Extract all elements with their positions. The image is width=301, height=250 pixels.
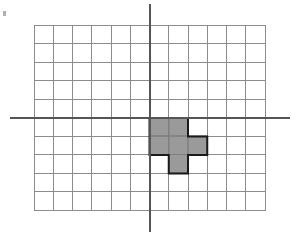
grid-cell [246, 99, 265, 118]
grid-cell [150, 81, 169, 100]
grid-cell [73, 136, 92, 155]
grid-cell [130, 155, 149, 174]
grid-cell [169, 192, 188, 211]
grid-cell [73, 173, 92, 192]
grid-cell [73, 99, 92, 118]
grid-cell [188, 81, 207, 100]
grid-cell [53, 44, 72, 63]
grid-cell [150, 192, 169, 211]
grid-cell [207, 192, 226, 211]
grid-cell [92, 25, 111, 44]
grid-cell [92, 44, 111, 63]
grid-cell [34, 136, 53, 155]
grid-cell [188, 192, 207, 211]
grid-cell [111, 192, 130, 211]
grid-cell [92, 192, 111, 211]
grid-cell [53, 118, 72, 137]
grid-cell [130, 62, 149, 81]
grid-cell [73, 118, 92, 137]
grid-cell [246, 81, 265, 100]
grid-cell [169, 99, 188, 118]
grid-cell [92, 136, 111, 155]
grid-cell [207, 81, 226, 100]
grid-cell [53, 62, 72, 81]
grid-cell [227, 62, 246, 81]
grid-cell [92, 173, 111, 192]
grid-cell [246, 155, 265, 174]
grid-cell [227, 118, 246, 137]
grid-cell [34, 155, 53, 174]
grid-cell [111, 25, 130, 44]
shaded-cell [169, 118, 188, 137]
grid-cell [227, 25, 246, 44]
grid-cell [111, 118, 130, 137]
grid-cell [227, 44, 246, 63]
grid-cell [73, 192, 92, 211]
grid-cell [246, 136, 265, 155]
grid-cell [227, 173, 246, 192]
grid-cell [130, 173, 149, 192]
corner-tick-mark [3, 11, 6, 16]
grid-cell [92, 99, 111, 118]
grid-cell [207, 118, 226, 137]
grid-cell [111, 155, 130, 174]
grid-cell [246, 118, 265, 137]
grid-cell [150, 173, 169, 192]
grid-cell [130, 44, 149, 63]
grid-cell [246, 44, 265, 63]
grid-cell [130, 81, 149, 100]
grid-cell [169, 173, 188, 192]
grid-cell [246, 25, 265, 44]
grid-cell [73, 155, 92, 174]
shaded-cell [169, 136, 188, 155]
grid-cell [53, 99, 72, 118]
grid-cell [130, 136, 149, 155]
grid-cell [188, 62, 207, 81]
grid-cell [227, 136, 246, 155]
grid-cell [188, 118, 207, 137]
grid-cell [169, 25, 188, 44]
corner-mark-group [3, 11, 6, 16]
grid-cell [130, 99, 149, 118]
grid-cell [111, 136, 130, 155]
grid-cell [92, 62, 111, 81]
grid-cell [246, 192, 265, 211]
shaded-cell [150, 118, 169, 137]
figure-root [0, 0, 301, 250]
grid-cell [130, 25, 149, 44]
grid-cell [53, 173, 72, 192]
grid-cell [169, 44, 188, 63]
grid-cell [111, 44, 130, 63]
grid-cell [150, 44, 169, 63]
grid-cell [111, 99, 130, 118]
grid-cell [207, 44, 226, 63]
grid-cell [207, 136, 226, 155]
grid-cell [227, 81, 246, 100]
grid-cell [130, 118, 149, 137]
grid-cell [92, 118, 111, 137]
grid-cell [227, 192, 246, 211]
coordinate-grid-figure [0, 0, 301, 250]
grid-cell [34, 81, 53, 100]
grid-cell [111, 173, 130, 192]
grid-cell [53, 192, 72, 211]
grid-cell [34, 99, 53, 118]
grid-cell [92, 155, 111, 174]
shaded-cell [188, 136, 207, 155]
grid-cell [169, 62, 188, 81]
grid-cell [34, 118, 53, 137]
grid-cell [111, 62, 130, 81]
grid-cell [92, 81, 111, 100]
grid-cell [207, 155, 226, 174]
grid-cell [188, 173, 207, 192]
grid-cell [53, 81, 72, 100]
shaded-cell [150, 136, 169, 155]
grid-cell [53, 25, 72, 44]
grid-cell [207, 99, 226, 118]
grid-cell [34, 62, 53, 81]
grid-cell [111, 81, 130, 100]
grid-cell [246, 173, 265, 192]
grid-cell [73, 44, 92, 63]
grid-cell [207, 62, 226, 81]
grid-cell [73, 81, 92, 100]
